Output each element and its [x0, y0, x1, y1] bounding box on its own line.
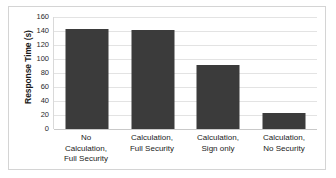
bar-series: [54, 17, 317, 129]
x-axis-category-label: Calculation,Full Security: [119, 133, 185, 154]
x-axis-category-label-line: Calculation,: [119, 133, 185, 144]
y-axis-tick-labels: 020406080100120140160: [25, 17, 49, 129]
y-axis-tick-label: 40: [25, 97, 49, 105]
bar: [263, 113, 306, 129]
y-axis-tick-label: 160: [25, 13, 49, 21]
x-axis-category-label: Calculation,Sign only: [185, 133, 251, 154]
y-axis-tick-label: 60: [25, 83, 49, 91]
x-axis-category-label: Calculation,No Security: [251, 133, 317, 154]
bar-slot: [120, 17, 186, 129]
x-axis-category-labels: NoCalculation,Full SecurityCalculation,F…: [53, 133, 317, 169]
x-axis-category-label-line: Calculation,: [251, 133, 317, 144]
bar-slot: [186, 17, 252, 129]
y-axis-tick-label: 140: [25, 27, 49, 35]
x-axis-category-label-line: Full Security: [119, 144, 185, 155]
x-axis-category-label-line: Sign only: [185, 144, 251, 155]
y-axis-tick-label: 80: [25, 69, 49, 77]
bar: [197, 65, 240, 129]
x-axis-category-label-line: Calculation,: [185, 133, 251, 144]
x-axis-category-label-line: Calculation,: [53, 144, 119, 155]
bar: [131, 30, 174, 129]
bar-slot: [54, 17, 120, 129]
y-axis-tick-label: 100: [25, 55, 49, 63]
x-axis-category-label-line: No Security: [251, 144, 317, 155]
x-axis-category-label-line: Full Security: [53, 154, 119, 165]
y-axis-tick-label: 0: [25, 125, 49, 133]
x-axis-category-label-line: No: [53, 133, 119, 144]
bar: [65, 29, 108, 129]
plot-area: [53, 17, 317, 129]
axis-baseline: [54, 129, 317, 130]
y-axis-tick-label: 120: [25, 41, 49, 49]
x-axis-category-label: NoCalculation,Full Security: [53, 133, 119, 165]
y-axis-tick-label: 20: [25, 111, 49, 119]
chart-figure: Response Time (s) 020406080100120140160 …: [8, 6, 326, 170]
bar-slot: [251, 17, 317, 129]
